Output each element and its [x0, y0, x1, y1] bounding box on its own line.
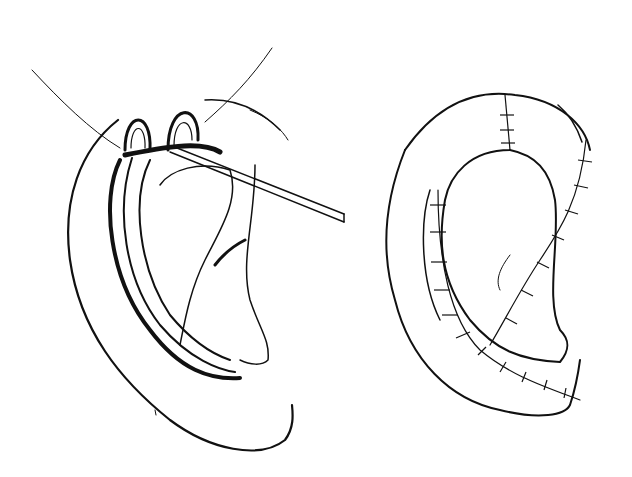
surgical-ear-illustration — [0, 0, 632, 477]
illustration-canvas — [0, 0, 632, 477]
left-ear-panel — [32, 48, 344, 450]
right-ear-panel — [386, 94, 592, 416]
